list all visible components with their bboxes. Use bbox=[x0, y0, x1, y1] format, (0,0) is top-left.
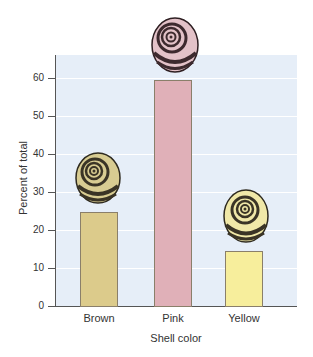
y-tick-60 bbox=[48, 78, 55, 79]
y-axis-label: Percent of total bbox=[17, 133, 29, 223]
y-tick-label: 50 bbox=[4, 110, 44, 121]
bar-pink bbox=[154, 80, 192, 307]
y-tick-0 bbox=[48, 306, 55, 307]
bar-yellow bbox=[225, 251, 263, 307]
y-tick-label: 10 bbox=[4, 262, 44, 273]
y-tick-40 bbox=[48, 154, 55, 155]
yellow-snail-shell-icon bbox=[222, 188, 270, 245]
y-tick-30 bbox=[48, 192, 55, 193]
category-label-yellow: Yellow bbox=[214, 312, 274, 324]
y-tick-label: 0 bbox=[4, 300, 44, 311]
y-tick-label: 60 bbox=[4, 72, 44, 83]
bar-brown bbox=[80, 212, 118, 307]
category-label-pink: Pink bbox=[143, 312, 203, 324]
y-tick-10 bbox=[48, 268, 55, 269]
y-tick-50 bbox=[48, 116, 55, 117]
pink-snail-shell-icon bbox=[150, 15, 200, 75]
y-tick-label: 20 bbox=[4, 224, 44, 235]
y-axis-line bbox=[55, 55, 56, 307]
brown-snail-shell-icon bbox=[74, 150, 122, 206]
gridline-60 bbox=[55, 78, 297, 79]
x-axis-label: Shell color bbox=[0, 332, 313, 344]
y-tick-20 bbox=[48, 230, 55, 231]
category-label-brown: Brown bbox=[69, 312, 129, 324]
